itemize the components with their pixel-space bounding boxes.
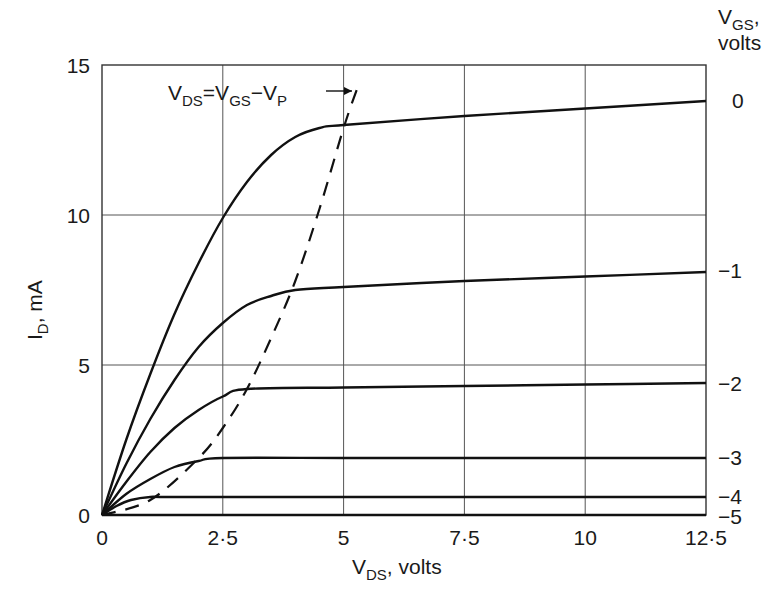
y-tick-label: 0 (78, 504, 90, 527)
x-tick-label: 12·5 (685, 526, 727, 549)
y-axis-label: ID, mA (23, 280, 51, 340)
legend-label-vgs: 0 (732, 89, 744, 112)
legend-label-vgs: −5 (718, 505, 742, 528)
y-axis-ticks: 051015 (67, 54, 90, 527)
curve-vgs-neg2 (102, 383, 706, 515)
y-tick-label: 10 (67, 204, 90, 227)
curve-vgs-0 (102, 101, 706, 515)
x-tick-label: 0 (96, 526, 108, 549)
y-tick-label: 15 (67, 54, 90, 77)
chart: 02·557·51012·5 051015 0−1−2−3−4−5 VDS, v… (0, 0, 781, 604)
legend-label-vgs: −3 (718, 446, 742, 469)
x-tick-label: 5 (338, 526, 350, 549)
plot-frame (102, 65, 706, 515)
x-axis-label: VDS, volts (352, 555, 442, 583)
x-tick-label: 10 (574, 526, 597, 549)
y-tick-label: 5 (78, 354, 90, 377)
x-tick-label: 2·5 (208, 526, 238, 549)
x-axis-ticks: 02·557·51012·5 (96, 526, 727, 549)
annotation-arrow-icon (326, 87, 352, 95)
legend-label-vgs: −2 (718, 372, 742, 395)
pinchoff-locus (102, 86, 358, 515)
drain-curves (102, 101, 706, 515)
grid-lines (102, 65, 706, 515)
legend-labels: 0−1−2−3−4−5 (718, 89, 744, 528)
curve-vgs-neg4 (102, 497, 706, 515)
legend-title-units: volts (718, 31, 761, 54)
curve-vgs-neg3 (102, 458, 706, 515)
legend-label-vgs: −1 (718, 259, 742, 282)
curve-vgs-neg1 (102, 272, 706, 515)
legend-title: VGS, (718, 5, 760, 33)
pinchoff-annotation: VDS=VGS−VP (168, 81, 287, 109)
x-tick-label: 7·5 (449, 526, 479, 549)
